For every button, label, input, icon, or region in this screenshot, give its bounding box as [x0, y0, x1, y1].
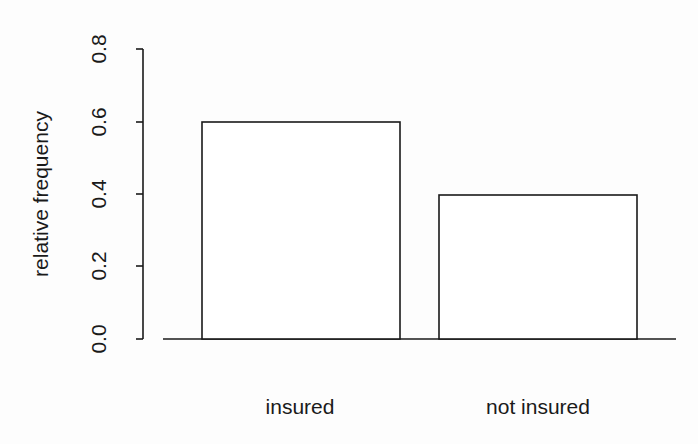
- y-tick-label: 0.8: [87, 34, 110, 63]
- y-axis: 0.0 0.2 0.4 0.6 0.8 relative frequency: [29, 34, 143, 353]
- category-label-not-insured: not insured: [486, 395, 590, 418]
- y-tick-label: 0.2: [87, 251, 110, 280]
- bar-chart: 0.0 0.2 0.4 0.6 0.8 relative frequency i…: [0, 0, 698, 444]
- y-tick-label: 0.6: [87, 107, 110, 136]
- y-tick-label: 0.4: [87, 179, 110, 209]
- y-axis-title: relative frequency: [29, 111, 52, 277]
- bar-not-insured: [439, 195, 637, 339]
- y-tick-label: 0.0: [87, 324, 110, 353]
- category-label-insured: insured: [266, 395, 335, 418]
- bar-insured: [202, 122, 400, 339]
